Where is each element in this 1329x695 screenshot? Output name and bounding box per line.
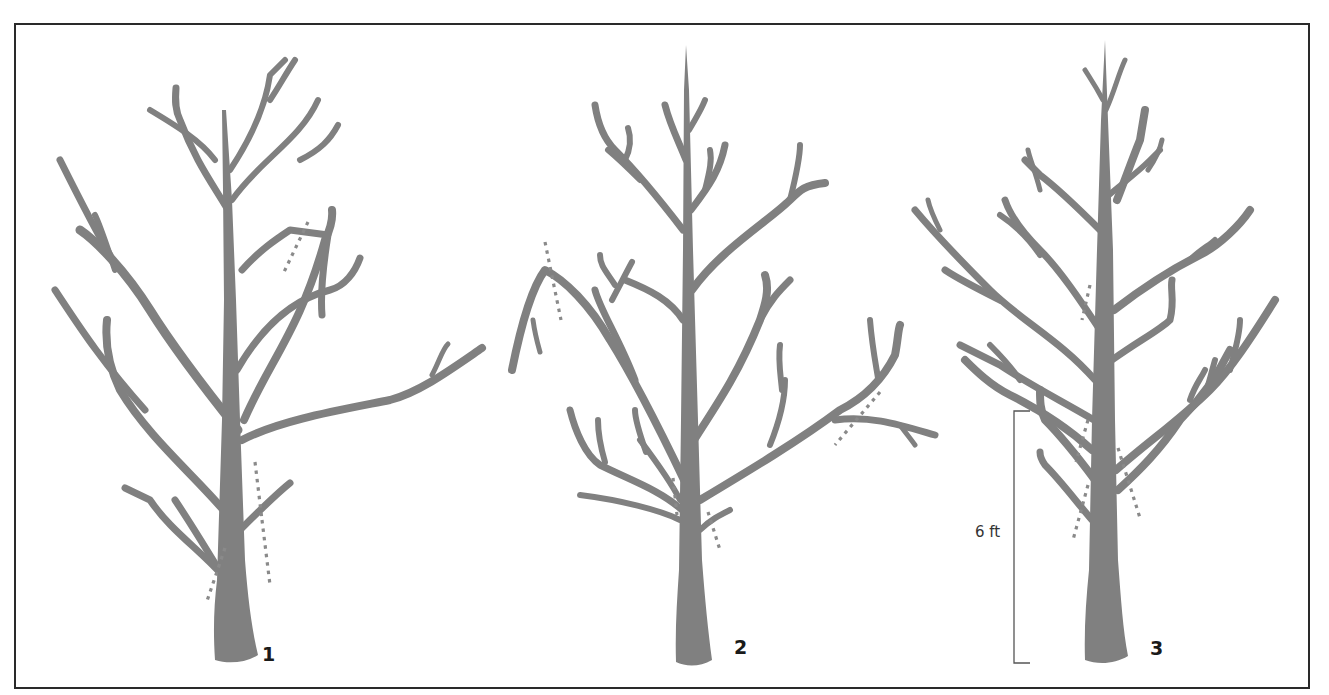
tree-1-cut-mark <box>262 520 270 585</box>
tree-3: 3 <box>915 40 1275 663</box>
measurement-bracket <box>1014 411 1030 663</box>
tree-1-label: 1 <box>262 643 275 665</box>
tree-2-trunk <box>676 45 712 666</box>
tree-2: 2 <box>512 45 935 666</box>
measurement-label: 6 ft <box>975 523 1000 541</box>
tree-1: 1 <box>55 60 482 665</box>
height-measurement: 6 ft <box>975 411 1030 663</box>
tree-3-label: 3 <box>1150 637 1163 659</box>
pruning-diagram: 1 2 <box>0 0 1329 695</box>
tree-2-label: 2 <box>734 636 747 658</box>
